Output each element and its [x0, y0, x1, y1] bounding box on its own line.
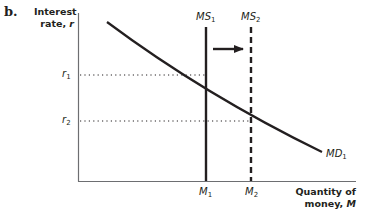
ms1-label-sub: 1	[211, 16, 215, 24]
tick-m2: M2	[245, 186, 258, 199]
tick-m1-base: M	[199, 186, 208, 197]
x-axis-variable: M	[347, 198, 356, 209]
y-axis-title-line1: Interest	[34, 6, 74, 18]
ms2-label-sub: 2	[256, 16, 260, 24]
ms1-label: MS1	[196, 11, 215, 24]
y-axis-title-text: rate,	[40, 18, 69, 29]
tick-m1: M1	[199, 186, 212, 199]
md1-label-base: MD	[326, 148, 342, 159]
tick-r2: r2	[62, 114, 71, 127]
tick-r1: r1	[62, 68, 71, 81]
y-axis-title: Interest rate, r	[34, 6, 74, 30]
ms1-label-base: MS	[196, 11, 211, 22]
y-axis-title-line2: rate, r	[34, 18, 74, 30]
x-axis-title-line1: Quantity of	[290, 186, 356, 198]
tick-m2-base: M	[245, 186, 254, 197]
tick-m2-sub: 2	[254, 191, 258, 199]
md1-label: MD1	[326, 148, 347, 161]
money-market-diagram	[0, 0, 374, 217]
x-axis-title-text: money,	[305, 198, 347, 209]
x-axis-title-line2: money, M	[290, 198, 356, 210]
tick-r2-sub: 2	[66, 119, 70, 127]
md1-curve	[107, 22, 322, 152]
panel-label: b.	[4, 4, 18, 19]
ms2-label: MS2	[241, 11, 260, 24]
tick-r1-sub: 1	[66, 73, 70, 81]
x-axis-title: Quantity of money, M	[290, 186, 356, 210]
md1-label-sub: 1	[342, 153, 346, 161]
y-axis-variable: r	[69, 18, 74, 29]
ms2-label-base: MS	[241, 11, 256, 22]
tick-m1-sub: 1	[208, 191, 212, 199]
